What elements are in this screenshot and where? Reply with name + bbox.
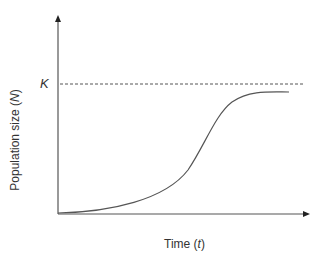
logistic-growth-plot bbox=[0, 0, 325, 263]
y-axis-label: Population size (N) bbox=[8, 89, 22, 190]
y-axis-arrow-icon bbox=[55, 15, 61, 22]
x-label-close: ) bbox=[201, 237, 205, 251]
x-axis-label: Time (t) bbox=[164, 237, 205, 251]
y-label-var: N bbox=[8, 93, 22, 102]
logistic-curve bbox=[58, 92, 289, 213]
x-axis-arrow-icon bbox=[303, 211, 310, 217]
y-label-text: Population size ( bbox=[8, 102, 22, 191]
y-label-close: ) bbox=[8, 89, 22, 93]
k-label: K bbox=[40, 76, 49, 91]
x-label-text: Time ( bbox=[164, 237, 198, 251]
